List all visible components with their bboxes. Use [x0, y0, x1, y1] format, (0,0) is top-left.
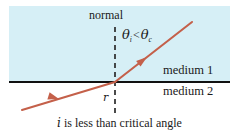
- medium-1-label: medium 1: [163, 64, 213, 77]
- normal-label: normal: [89, 9, 123, 21]
- theta-critical-symbol: θ: [141, 27, 149, 42]
- theta-incident-subscript: i: [130, 35, 132, 44]
- medium-2-label: medium 2: [163, 85, 213, 98]
- angle-inequality-label: θi<θc: [122, 28, 152, 41]
- refraction-diagram: normal θi<θc medium 1 medium 2 r i is le…: [0, 0, 239, 137]
- theta-incident-symbol: θ: [122, 27, 130, 42]
- refraction-angle-label: r: [103, 92, 108, 103]
- caption-text: is less than critical angle: [61, 116, 182, 130]
- less-than-symbol: <: [132, 28, 141, 42]
- figure-caption: i is less than critical angle: [0, 117, 239, 129]
- theta-critical-subscript: c: [149, 35, 152, 44]
